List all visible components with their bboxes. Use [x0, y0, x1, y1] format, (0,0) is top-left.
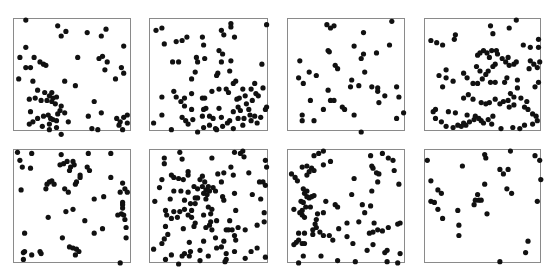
- data-point: [517, 126, 522, 131]
- data-point: [375, 227, 380, 232]
- data-point: [302, 231, 307, 236]
- data-point: [187, 240, 192, 245]
- data-point: [375, 89, 380, 94]
- data-point: [311, 153, 316, 158]
- data-point: [171, 89, 176, 94]
- data-point: [395, 260, 400, 265]
- data-point: [174, 39, 179, 44]
- data-point: [262, 210, 267, 215]
- data-point: [456, 223, 461, 228]
- data-point: [387, 42, 392, 47]
- data-point: [536, 45, 541, 50]
- data-point: [194, 55, 199, 60]
- data-point: [30, 79, 35, 84]
- data-point: [263, 158, 268, 163]
- data-point: [425, 158, 430, 163]
- data-point: [193, 220, 198, 225]
- scatter-panel-6: [149, 149, 268, 263]
- data-point: [240, 149, 245, 154]
- data-point: [121, 71, 126, 76]
- data-point: [474, 64, 479, 69]
- data-point: [82, 218, 87, 223]
- data-point: [59, 103, 64, 108]
- data-point: [433, 116, 438, 121]
- data-point: [252, 114, 257, 119]
- data-point: [470, 97, 475, 102]
- data-point: [258, 196, 263, 201]
- data-point: [120, 127, 125, 132]
- data-point: [535, 199, 540, 204]
- scatter-panel-5: [13, 149, 131, 263]
- data-point: [22, 249, 27, 254]
- data-point: [240, 87, 245, 92]
- data-point: [440, 216, 445, 221]
- data-point: [43, 63, 48, 68]
- data-point: [432, 200, 437, 205]
- data-point: [291, 242, 296, 247]
- data-point: [370, 242, 375, 247]
- data-point: [506, 55, 511, 60]
- data-point: [498, 126, 503, 131]
- data-point: [315, 211, 320, 216]
- data-point: [228, 165, 233, 170]
- data-point: [368, 153, 373, 158]
- data-point: [72, 162, 77, 167]
- data-point: [231, 81, 236, 86]
- data-point: [511, 94, 516, 99]
- data-point: [220, 51, 225, 56]
- data-point: [476, 116, 481, 121]
- data-point: [455, 123, 460, 128]
- data-point: [190, 117, 195, 122]
- data-point: [92, 231, 97, 236]
- data-point: [369, 84, 374, 89]
- data-point: [42, 90, 47, 95]
- data-point: [99, 110, 104, 115]
- scatter-panel-8: [424, 149, 541, 263]
- data-point: [304, 163, 309, 168]
- data-point: [35, 88, 40, 93]
- data-point: [493, 97, 498, 102]
- data-point: [63, 209, 68, 214]
- data-point: [121, 212, 126, 217]
- data-point: [515, 77, 520, 82]
- data-point: [327, 49, 332, 54]
- data-point: [495, 51, 500, 56]
- data-point: [527, 66, 532, 71]
- data-point: [398, 251, 403, 256]
- scatter-panel-4: [424, 18, 541, 131]
- data-point: [475, 81, 480, 86]
- data-point: [352, 44, 357, 49]
- data-point: [243, 93, 248, 98]
- data-point: [208, 211, 213, 216]
- data-point: [321, 107, 326, 112]
- data-point: [200, 174, 205, 179]
- data-point: [201, 239, 206, 244]
- data-point: [532, 153, 537, 158]
- data-point: [321, 233, 326, 238]
- data-point: [525, 239, 530, 244]
- scatter-plot-area: [425, 19, 540, 130]
- data-point: [214, 73, 219, 78]
- data-point: [244, 101, 249, 106]
- data-point: [300, 118, 305, 123]
- data-point: [385, 259, 390, 264]
- data-point: [46, 215, 51, 220]
- data-point: [348, 84, 353, 89]
- data-point: [394, 84, 399, 89]
- data-point: [176, 176, 181, 181]
- data-point: [163, 208, 168, 213]
- data-point: [259, 62, 264, 67]
- data-point: [534, 114, 539, 119]
- data-point: [200, 114, 205, 119]
- data-point: [483, 72, 488, 77]
- data-point: [522, 123, 527, 128]
- data-point: [209, 155, 214, 160]
- data-point: [440, 42, 445, 47]
- data-point: [219, 244, 224, 249]
- data-point: [23, 65, 28, 70]
- data-point: [209, 227, 214, 232]
- data-point: [232, 191, 237, 196]
- data-point: [22, 231, 27, 236]
- data-point: [359, 56, 364, 61]
- data-point: [180, 157, 185, 162]
